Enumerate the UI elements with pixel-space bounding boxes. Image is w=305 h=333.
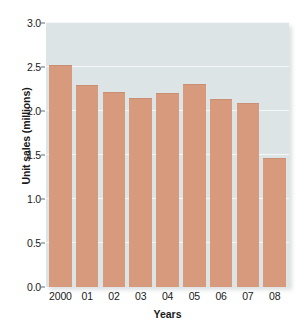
bar [156,93,178,287]
x-axis-tick-label: 05 [181,290,208,302]
y-axis-tick-labels: 0.00.51.01.52.02.53.0 [0,0,44,333]
bar-slot [181,23,208,287]
bar-slot [127,23,154,287]
y-axis-tick-label: 2.0 [27,105,41,117]
x-axis-tick-label: 2000 [47,290,74,302]
x-axis-tick-label: 07 [234,290,261,302]
y-axis-tick-mark [41,287,45,288]
x-axis-tick-labels: 20000102030405060708 [46,290,289,302]
y-axis-tick-label: 0.5 [27,237,41,249]
bar [183,84,205,287]
bar [103,92,125,287]
x-axis-title: Years [46,308,289,320]
x-axis-tick-label: 01 [74,290,101,302]
bar-slot [234,23,261,287]
y-axis-tick-label: 1.5 [27,149,41,161]
bar-slot [47,23,74,287]
bar [237,103,259,287]
bar [210,99,232,287]
x-axis-tick-label: 04 [154,290,181,302]
x-axis-tick-label: 08 [261,290,288,302]
bar-chart: Unit sales (millions) 0.00.51.01.52.02.5… [0,0,305,333]
bar [263,158,285,287]
y-axis-tick-mark [41,23,45,24]
bar-slot [208,23,235,287]
x-axis-tick-label: 06 [208,290,235,302]
y-axis-tick-mark [41,199,45,200]
bar [76,85,98,287]
y-axis-tick-mark [41,243,45,244]
bar-slot [74,23,101,287]
bar-series [46,23,289,287]
bar-slot [101,23,128,287]
bar-slot [261,23,288,287]
y-axis-tick-mark [41,155,45,156]
y-axis-tick-label: 1.0 [27,193,41,205]
y-axis-tick-label: 3.0 [27,17,41,29]
y-axis-tick-mark [41,67,45,68]
y-axis-tick-mark [41,111,45,112]
bar [49,65,71,287]
x-axis-tick-label: 03 [127,290,154,302]
bar-slot [154,23,181,287]
y-axis-tick-label: 0.0 [27,281,41,293]
y-axis-tick-label: 2.5 [27,61,41,73]
bar [129,98,151,287]
x-axis-tick-label: 02 [101,290,128,302]
plot-area [46,23,289,287]
